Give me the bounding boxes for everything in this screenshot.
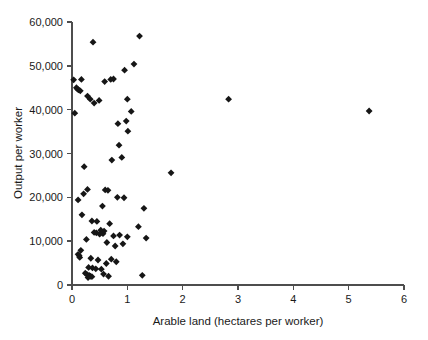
data-point: [136, 33, 143, 40]
data-point: [101, 78, 108, 85]
data-point: [79, 211, 86, 218]
data-point: [103, 239, 110, 246]
x-tick-label: 4: [290, 293, 296, 305]
x-axis-ticks: 0123456: [69, 285, 407, 305]
data-point: [110, 233, 117, 240]
data-point: [99, 203, 106, 210]
data-point: [168, 169, 175, 176]
y-tick-label: 20,000: [29, 191, 63, 203]
y-tick-label: 40,000: [29, 104, 63, 116]
y-tick-label: 0: [57, 279, 63, 291]
data-point: [139, 272, 146, 279]
data-point: [75, 197, 82, 204]
data-point: [128, 108, 135, 115]
y-tick-label: 60,000: [29, 16, 63, 28]
data-point: [106, 220, 113, 227]
data-point: [80, 190, 87, 197]
data-point: [108, 157, 115, 164]
data-point: [123, 118, 130, 125]
data-point: [366, 108, 373, 115]
x-tick-label: 1: [124, 293, 130, 305]
x-tick-label: 0: [69, 293, 75, 305]
data-point: [83, 236, 90, 243]
data-point: [141, 205, 148, 212]
data-point: [131, 61, 138, 68]
y-tick-label: 50,000: [29, 60, 63, 72]
data-point: [121, 194, 128, 201]
y-axis-title: Output per worker: [12, 107, 24, 199]
data-point: [115, 120, 122, 127]
data-point: [120, 240, 127, 247]
scatter-chart-figure: 010,00020,00030,00040,00050,00060,000 01…: [0, 0, 428, 340]
data-point: [78, 76, 85, 83]
data-points-group: [70, 33, 372, 281]
y-tick-label: 30,000: [29, 148, 63, 160]
x-tick-label: 5: [346, 293, 352, 305]
data-point: [121, 67, 128, 74]
data-point: [112, 243, 119, 250]
data-point: [135, 223, 142, 230]
data-point: [225, 96, 232, 103]
x-axis-title: Arable land (hectares per worker): [153, 315, 324, 327]
data-point: [118, 154, 125, 161]
x-tick-label: 2: [180, 293, 186, 305]
y-axis-ticks: 010,00020,00030,00040,00050,00060,000: [29, 16, 72, 291]
plot-canvas: 010,00020,00030,00040,00050,00060,000 01…: [0, 0, 428, 340]
data-point: [116, 142, 123, 149]
data-point: [94, 218, 101, 225]
data-point: [87, 255, 94, 262]
data-point: [114, 194, 121, 201]
data-point: [95, 257, 102, 264]
data-point: [124, 233, 131, 240]
data-point: [84, 186, 91, 193]
data-point: [124, 128, 131, 135]
data-point: [81, 163, 88, 170]
data-point: [116, 232, 123, 239]
data-point: [103, 260, 110, 267]
y-tick-label: 10,000: [29, 235, 63, 247]
data-point: [90, 39, 97, 46]
x-tick-label: 3: [235, 293, 241, 305]
data-point: [143, 235, 150, 242]
x-tick-label: 6: [401, 293, 407, 305]
data-point: [124, 96, 131, 103]
